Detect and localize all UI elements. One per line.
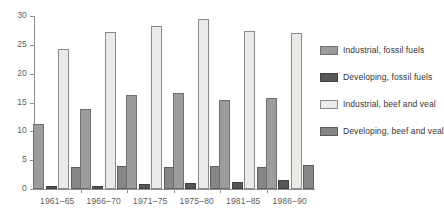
bar (139, 184, 150, 189)
bar (219, 100, 230, 189)
bar (303, 165, 314, 189)
chart-legend: Industrial, fossil fuelsDeveloping, foss… (320, 44, 438, 152)
plot-area (34, 16, 313, 189)
x-axis-group-separator (220, 190, 221, 193)
legend-item[interactable]: Industrial, fossil fuels (320, 44, 438, 56)
bar-group (173, 16, 222, 189)
bar (105, 32, 116, 189)
legend-item-label: Developing, fossil fuels (343, 72, 432, 82)
y-axis-tick-label: 0 (22, 183, 27, 193)
legend-color-swatch (320, 73, 338, 82)
x-axis-label: 1971–75 (127, 196, 174, 206)
bar-group (80, 16, 129, 189)
bar (173, 93, 184, 189)
legend-item[interactable]: Developing, beef and veal (320, 125, 438, 137)
bar (58, 49, 69, 189)
bar-group (266, 16, 315, 189)
y-axis-tick-label: 5 (22, 154, 27, 164)
x-axis-group-separator (127, 190, 128, 193)
x-axis-group-separator (174, 190, 175, 193)
y-axis-tick-mark (30, 189, 34, 190)
x-axis-group-separator (81, 190, 82, 193)
bar (198, 19, 209, 189)
y-axis-tick-label: 30 (17, 10, 27, 20)
bar (33, 124, 44, 189)
bar (244, 31, 255, 189)
x-axis-label: 1981–85 (220, 196, 267, 206)
x-axis-label: 1961–65 (34, 196, 81, 206)
x-axis-label: 1986–90 (267, 196, 314, 206)
bar (46, 186, 57, 189)
y-axis-tick: 0 (30, 189, 34, 190)
y-axis-tick-label: 25 (17, 39, 27, 49)
y-axis-tick-label: 20 (17, 68, 27, 78)
y-axis-tick-label: 10 (17, 125, 27, 135)
bar-group (126, 16, 175, 189)
bar-group (219, 16, 268, 189)
legend-item-label: Industrial, beef and veal (343, 99, 436, 109)
bar (278, 180, 289, 189)
bar (151, 26, 162, 189)
y-axis-tick-label: 15 (17, 97, 27, 107)
legend-item-label: Developing, beef and veal (343, 126, 444, 136)
x-axis-label: 1966–70 (81, 196, 128, 206)
x-axis-group-separator (267, 190, 268, 193)
legend-color-swatch (320, 100, 338, 109)
bar (92, 186, 103, 189)
bar-group (33, 16, 82, 189)
bar (291, 33, 302, 189)
bar (185, 183, 196, 189)
bar (232, 182, 243, 189)
bar (266, 98, 277, 189)
bar (126, 95, 137, 189)
x-axis-label: 1975–80 (174, 196, 221, 206)
legend-item[interactable]: Developing, fossil fuels (320, 71, 438, 83)
legend-item[interactable]: Industrial, beef and veal (320, 98, 438, 110)
x-axis-line (34, 189, 315, 190)
legend-color-swatch (320, 46, 338, 55)
legend-color-swatch (320, 127, 338, 136)
legend-item-label: Industrial, fossil fuels (343, 45, 424, 55)
bar (80, 109, 91, 189)
